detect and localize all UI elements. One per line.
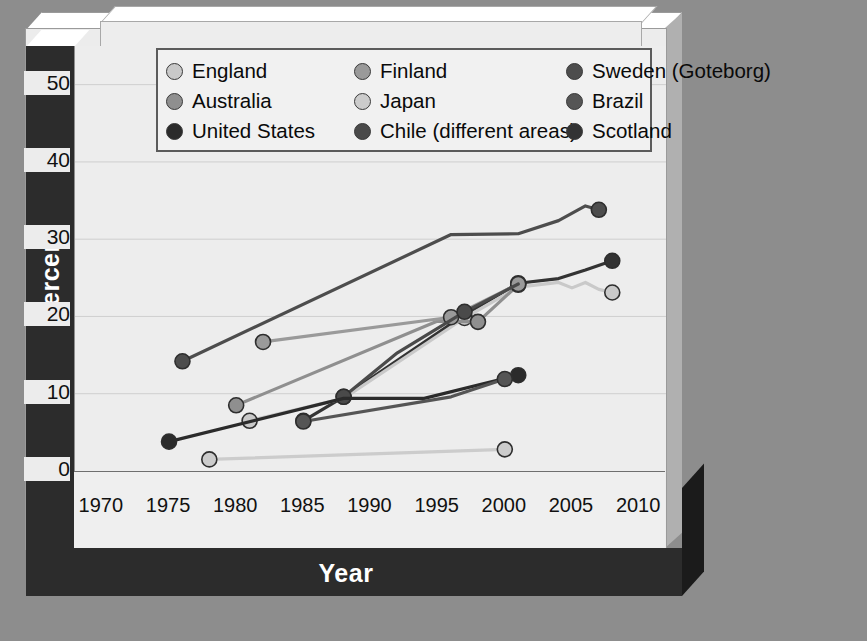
legend-item: Chile (different areas) [354,119,566,143]
x-tick-label: 1985 [280,494,325,517]
legend-label: Sweden (Goteborg) [592,59,771,83]
legend-label: Scotland [592,119,672,143]
legend-marker-icon [354,63,371,80]
corner-shadow-wedge [682,464,704,596]
data-point-marker [229,398,244,413]
x-tick-label: 2005 [549,494,594,517]
chart-legend: EnglandFinlandSweden (Goteborg)Australia… [156,48,652,152]
data-point-marker [497,442,512,457]
series-line [263,284,518,342]
y-axis-title: Percent [36,156,65,396]
x-axis-band: Year [26,548,682,596]
legend-marker-icon [354,93,371,110]
legend-label: Chile (different areas) [380,119,577,143]
legend-label: Finland [380,59,447,83]
legend-label: Brazil [592,89,643,113]
series-japan [202,442,513,467]
series-brazil [296,372,512,430]
data-point-marker [175,354,190,369]
series-finland [256,277,526,350]
legend-grid: EnglandFinlandSweden (Goteborg)Australia… [166,56,642,146]
data-point-marker [202,452,217,467]
data-point-marker [605,253,620,268]
y-tick-label: 30 [24,225,70,249]
legend-item: England [166,59,354,83]
x-tick-label: 2000 [482,494,527,517]
legend-label: Australia [192,89,272,113]
data-point-marker [296,414,311,429]
data-point-marker [497,372,512,387]
data-point-marker [470,314,485,329]
x-tick-label: 1975 [146,494,191,517]
legend-label: Japan [380,89,436,113]
x-tick-label: 2010 [616,494,661,517]
y-tick-label: 40 [24,148,70,172]
legend-item: Japan [354,89,566,113]
data-point-marker [605,285,620,300]
y-tick-label: 0 [24,457,70,481]
x-tick-label: 1970 [79,494,124,517]
x-axis-area: 197019751980198519901995200020052010 [74,471,665,549]
legend-item: Australia [166,89,354,113]
legend-label: United States [192,119,315,143]
series-england [242,282,620,428]
series-line [169,375,518,441]
x-tick-label: 1995 [414,494,459,517]
y-tick-label: 50 [24,71,70,95]
series-line [209,449,505,459]
data-point-marker [457,304,472,319]
y-tick-label: 20 [24,302,70,326]
x-axis-title: Year [26,559,666,588]
legend-item: Scotland [566,119,771,143]
y-tick-label: 10 [24,380,70,404]
legend-marker-icon [354,123,371,140]
legend-marker-icon [166,93,183,110]
legend-label: England [192,59,267,83]
legend-marker-icon [166,63,183,80]
legend-item: Finland [354,59,566,83]
legend-marker-icon [566,123,583,140]
legend-marker-icon [566,63,583,80]
data-point-marker [162,434,177,449]
data-point-marker [591,202,606,217]
legend-item: Sweden (Goteborg) [566,59,771,83]
legend-item: Brazil [566,89,771,113]
legend-marker-icon [166,123,183,140]
legend-marker-icon [566,93,583,110]
x-tick-label: 1990 [347,494,392,517]
legend-item: United States [166,119,354,143]
series-united-states [162,368,526,449]
chart-plaque: Percent 19701975198019851990199520002005… [0,0,867,641]
series-australia [229,277,526,413]
data-point-marker [256,334,271,349]
x-tick-label: 1980 [213,494,258,517]
